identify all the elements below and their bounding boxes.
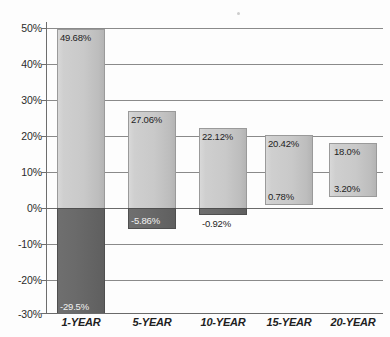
bar-negative-1-year[interactable]	[57, 208, 105, 314]
y-tick-label-neg30: -30%	[2, 309, 42, 320]
y-tick-label-40: 40%	[2, 59, 42, 70]
y-tick-label-20: 20%	[2, 131, 42, 142]
bar-group-10-year[interactable]: 22.12% -0.92%	[199, 0, 247, 283]
value-label-high-20-year: 18.0%	[334, 147, 360, 157]
y-tick-label-30: 30%	[2, 95, 42, 106]
y-tick-label-0: 0%	[2, 203, 42, 214]
bar-group-15-year[interactable]: 20.42% 0.78%	[265, 0, 313, 283]
value-label-low-20-year: 3.20%	[334, 184, 360, 194]
value-label-high-1-year: 49.68%	[60, 33, 91, 43]
y-tick-label-neg10: -10%	[2, 239, 42, 250]
x-tick-label-10-year: 10-YEAR	[191, 316, 255, 328]
x-tick-label-1-year: 1-YEAR	[53, 316, 109, 328]
bar-group-5-year[interactable]: 27.06% -5.86%	[128, 0, 176, 283]
x-tick-label-20-year: 20-YEAR	[321, 316, 385, 328]
bar-group-20-year[interactable]: 18.0% 3.20%	[329, 0, 377, 283]
y-axis-labels: 50% 40% 30% 20% 10% 0% -10% -20% -30%	[0, 0, 42, 337]
bar-positive-1-year[interactable]	[57, 29, 105, 209]
y-axis-line	[46, 22, 47, 314]
x-tick-label-5-year: 5-YEAR	[124, 316, 180, 328]
range-bar-chart: 50% 40% 30% 20% 10% 0% -10% -20% -30% 49…	[0, 0, 390, 337]
x-axis-line	[46, 313, 383, 314]
y-tick-label-10: 10%	[2, 167, 42, 178]
bar-positive-5-year[interactable]	[128, 111, 176, 209]
x-tick-label-15-year: 15-YEAR	[257, 316, 321, 328]
value-label-low-1-year: -29.5%	[60, 302, 89, 312]
value-label-high-10-year: 22.12%	[202, 132, 233, 142]
value-label-high-15-year: 20.42%	[268, 139, 299, 149]
y-tick-label-50: 50%	[2, 23, 42, 34]
y-tick-label-neg20: -20%	[2, 275, 42, 286]
value-label-low-15-year: 0.78%	[268, 192, 294, 202]
value-label-high-5-year: 27.06%	[131, 115, 162, 125]
value-label-low-10-year: -0.92%	[202, 219, 231, 229]
value-label-low-5-year: -5.86%	[131, 216, 160, 226]
bar-group-1-year[interactable]: 49.68% -29.5%	[57, 0, 105, 283]
bar-negative-10-year[interactable]	[199, 208, 247, 215]
